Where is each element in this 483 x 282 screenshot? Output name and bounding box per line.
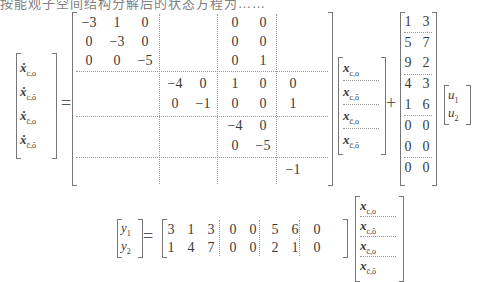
A-entry: 0 — [250, 118, 276, 134]
C-col-separator — [259, 220, 260, 256]
A-entry: 0 — [250, 34, 276, 50]
C-col-separator — [299, 220, 300, 256]
A-entry: −3 — [104, 34, 130, 50]
C-entry: 5 — [264, 222, 286, 238]
A-entry: 0 — [162, 96, 188, 112]
B-row-separator — [404, 115, 432, 116]
A-entry: 0 — [222, 34, 248, 50]
state-separator — [343, 128, 379, 129]
A-entry: 1 — [222, 76, 248, 92]
B-entry: 1 — [398, 97, 418, 113]
B-entry: 9 — [398, 55, 418, 71]
A-entry: −1 — [280, 162, 306, 178]
state-entry: xc,o — [343, 60, 359, 82]
lhs-entry: ẋc,o — [20, 60, 36, 82]
B-entry: 1 — [398, 14, 418, 30]
output-state-separator — [360, 256, 396, 257]
B-entry: 0 — [416, 139, 436, 155]
A-entry: 0 — [222, 15, 248, 31]
C-entry: 0 — [242, 240, 264, 256]
C-entry: 0 — [306, 240, 328, 256]
B-row-separator — [404, 157, 432, 158]
state-separator — [343, 104, 379, 105]
C-entry: 6 — [284, 222, 306, 238]
B-entry: 2 — [416, 55, 436, 71]
A-entry: 0 — [280, 76, 306, 92]
A-row-separator — [76, 157, 328, 158]
cropped-caption: 按能观子空间结构分解后的状态方程为…… — [0, 0, 266, 12]
state-entry: xc,ō — [343, 84, 359, 106]
state-entry: xc̄,ō — [343, 132, 359, 154]
output-equals-sign: = — [143, 226, 153, 247]
A-entry: 0 — [190, 76, 216, 92]
C-entry: 2 — [264, 240, 286, 256]
u-right-bracket — [466, 85, 471, 125]
B-entry: 0 — [398, 160, 418, 176]
A-entry: 1 — [250, 53, 276, 69]
output-state-entry: xc̄,ō — [360, 258, 376, 280]
C-entry: 1 — [160, 240, 182, 256]
equals-sign: = — [61, 93, 71, 114]
lhs-entry: ẋc̄,o — [20, 108, 36, 130]
C-entry: 1 — [284, 240, 306, 256]
A-row-separator — [76, 116, 328, 117]
A-entry: 0 — [132, 34, 158, 50]
A-entry: 1 — [104, 15, 130, 31]
A-entry: −1 — [190, 96, 216, 112]
B-entry: 3 — [416, 14, 436, 30]
B-entry: 5 — [398, 35, 418, 51]
output-state-separator — [360, 236, 396, 237]
state-separator — [343, 80, 379, 81]
output-entry: y2 — [121, 238, 131, 256]
A-entry: 0 — [250, 96, 276, 112]
B-row-separator — [404, 32, 432, 33]
lhs-entry: ẋc,ō — [20, 84, 36, 106]
A-entry: −5 — [250, 138, 276, 154]
A-entry: 0 — [250, 15, 276, 31]
C-col-separator — [219, 220, 220, 256]
lhs-entry: ẋc̄,ō — [20, 132, 36, 154]
C-entry: 3 — [160, 222, 182, 238]
A-entry: 0 — [104, 53, 130, 69]
x2-right-bracket — [399, 196, 404, 282]
A-entry: −4 — [222, 118, 248, 134]
input-entry: u1 — [448, 87, 459, 105]
B-entry: 0 — [416, 118, 436, 134]
A-entry: −4 — [162, 76, 188, 92]
B-entry: 0 — [398, 118, 418, 134]
A-right-bracket — [328, 12, 333, 186]
plus-sign: + — [386, 93, 396, 114]
A-col-separator — [159, 14, 160, 184]
A-entry: 0 — [222, 53, 248, 69]
C-entry: 0 — [242, 222, 264, 238]
B-entry: 0 — [398, 139, 418, 155]
A-entry: 0 — [76, 53, 102, 69]
C-entry: 0 — [222, 240, 244, 256]
state-entry: xc̄,o — [343, 108, 359, 130]
A-entry: 1 — [280, 96, 306, 112]
A-entry: 0 — [222, 138, 248, 154]
B-entry: 7 — [416, 35, 436, 51]
A-row-separator — [76, 71, 328, 72]
A-entry: 0 — [132, 15, 158, 31]
C-entry: 0 — [306, 222, 328, 238]
lhs-right-bracket — [52, 53, 57, 159]
A-entry: −5 — [132, 53, 158, 69]
C-entry: 0 — [222, 222, 244, 238]
output-entry: y1 — [121, 220, 131, 238]
A-col-separator — [217, 14, 218, 184]
A-entry: 0 — [222, 96, 248, 112]
B-entry: 4 — [398, 76, 418, 92]
B-row-separator — [404, 74, 432, 75]
B-entry: 6 — [416, 97, 436, 113]
C-right-bracket — [343, 219, 348, 258]
A-entry: 0 — [250, 76, 276, 92]
A-col-separator — [276, 14, 277, 184]
output-state-separator — [360, 216, 396, 217]
B-entry: 3 — [416, 76, 436, 92]
A-entry: 0 — [76, 34, 102, 50]
C-entry: 4 — [180, 240, 202, 256]
B-entry: 0 — [416, 160, 436, 176]
A-entry: −3 — [76, 15, 102, 31]
input-entry: u2 — [448, 105, 459, 123]
